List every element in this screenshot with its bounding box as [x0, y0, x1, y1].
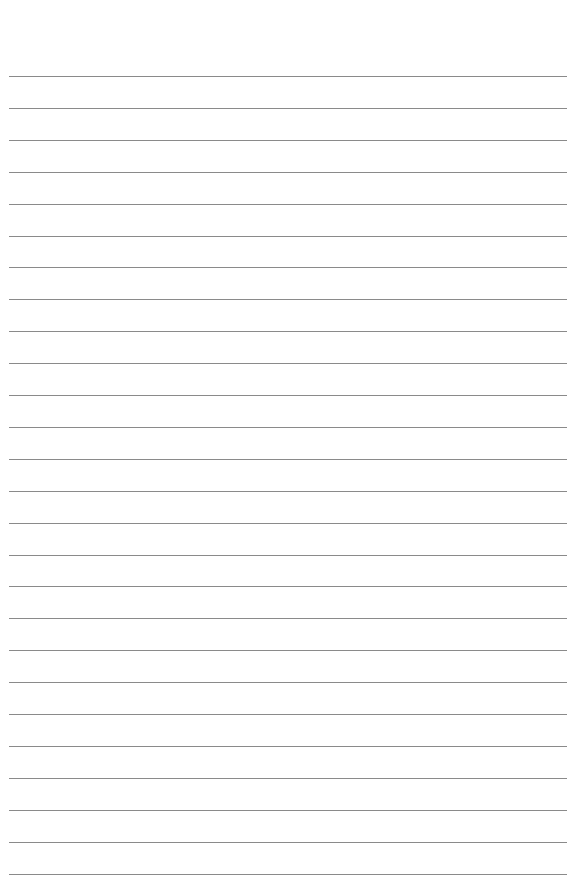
ruled-line: [9, 682, 567, 683]
ruled-line: [9, 395, 567, 396]
ruled-line: [9, 650, 567, 651]
ruled-line: [9, 140, 567, 141]
ruled-line: [9, 108, 567, 109]
ruled-line: [9, 331, 567, 332]
ruled-line: [9, 714, 567, 715]
ruled-line: [9, 172, 567, 173]
ruled-line: [9, 299, 567, 300]
ruled-line: [9, 267, 567, 268]
ruled-line: [9, 746, 567, 747]
ruled-line: [9, 555, 567, 556]
ruled-line: [9, 523, 567, 524]
ruled-line: [9, 810, 567, 811]
ruled-line: [9, 427, 567, 428]
ruled-line: [9, 491, 567, 492]
ruled-line: [9, 842, 567, 843]
ruled-line: [9, 459, 567, 460]
ruled-line: [9, 204, 567, 205]
ruled-line: [9, 236, 567, 237]
ruled-line: [9, 363, 567, 364]
ruled-line: [9, 618, 567, 619]
ruled-line: [9, 76, 567, 77]
ruled-line: [9, 874, 567, 875]
ruled-line: [9, 778, 567, 779]
ruled-line: [9, 586, 567, 587]
